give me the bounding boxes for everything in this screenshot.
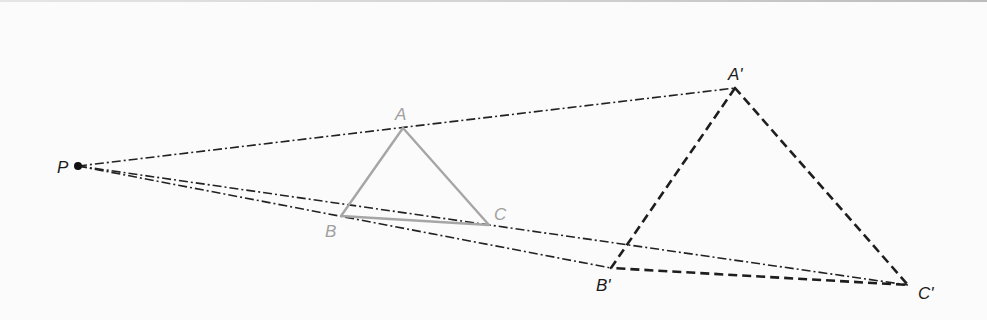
dilation-diagram: P A B C A' B' C' — [0, 0, 987, 320]
label-B-prime: B' — [596, 276, 611, 295]
triangle-A-prime-B-prime-C-prime — [611, 88, 908, 285]
label-B: B — [325, 222, 336, 241]
label-A: A — [394, 105, 406, 124]
ray-P-C-prime — [78, 166, 908, 285]
projection-rays — [78, 88, 908, 285]
label-P: P — [57, 158, 69, 177]
triangle-ABC — [341, 128, 489, 225]
center-point-P — [74, 162, 82, 170]
ray-P-A-prime — [78, 88, 735, 166]
label-A-prime: A' — [727, 65, 743, 84]
label-C-prime: C' — [918, 284, 934, 303]
label-C: C — [494, 205, 507, 224]
